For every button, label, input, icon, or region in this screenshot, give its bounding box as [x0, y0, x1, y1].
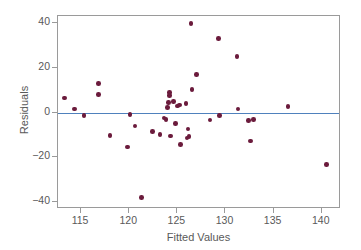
x-axis-tick [80, 208, 81, 213]
x-axis-tick [176, 208, 177, 213]
x-axis-tick-label: 130 [204, 215, 244, 226]
data-point [72, 107, 77, 112]
data-point [177, 103, 182, 108]
data-point [190, 87, 195, 92]
data-point [133, 124, 138, 129]
y-axis-tick [52, 22, 57, 23]
data-point [248, 139, 253, 144]
data-point [251, 117, 256, 122]
data-point [186, 127, 191, 132]
y-axis-tick [52, 201, 57, 202]
x-axis-tick-label: 125 [156, 215, 196, 226]
x-axis-tick [224, 208, 225, 213]
x-axis-tick [321, 208, 322, 213]
data-point [164, 117, 169, 122]
zero-reference-line [58, 113, 339, 114]
data-point [171, 99, 176, 104]
data-point [286, 104, 291, 109]
data-point [139, 195, 144, 200]
data-point [168, 134, 173, 139]
data-point [187, 134, 192, 139]
x-axis-tick [128, 208, 129, 213]
x-axis-tick-label: 115 [60, 215, 100, 226]
data-point [82, 113, 87, 118]
data-point [125, 145, 130, 150]
x-axis-tick-label: 120 [108, 215, 148, 226]
data-point [96, 92, 101, 97]
data-point [62, 96, 67, 101]
x-axis-tick [273, 208, 274, 213]
y-axis-title: Residuals [18, 40, 30, 180]
x-axis-tick-label: 135 [253, 215, 293, 226]
data-point [108, 133, 113, 138]
data-point [189, 21, 194, 26]
residual-scatter-chart: 40200−20−40 115120125130135140 Fitted Va… [0, 0, 361, 250]
data-point [165, 105, 170, 110]
data-point [235, 54, 240, 59]
y-axis-tick-label: −40 [14, 195, 50, 206]
data-point [128, 112, 133, 117]
data-point [236, 107, 241, 112]
data-point [167, 93, 172, 98]
data-point [216, 36, 221, 41]
data-point [178, 142, 183, 147]
data-point [324, 162, 329, 167]
data-point [217, 113, 222, 118]
data-point [184, 101, 189, 106]
y-axis-tick-label: 40 [14, 16, 50, 27]
x-axis-title: Fitted Values [57, 231, 340, 243]
plot-area [57, 15, 340, 208]
data-point [208, 118, 213, 123]
data-point [96, 81, 101, 86]
data-point [158, 132, 163, 137]
x-axis-tick-label: 140 [301, 215, 341, 226]
y-axis-tick [52, 112, 57, 113]
data-point [173, 121, 178, 126]
y-axis-tick [52, 156, 57, 157]
data-point [150, 129, 155, 134]
y-axis-tick [52, 67, 57, 68]
data-point [194, 72, 199, 77]
